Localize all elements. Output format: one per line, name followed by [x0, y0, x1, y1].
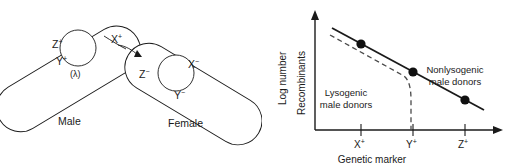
bacterial-conjugation-diagram: Z+ Y+ X+ (λ) Male Z− X− Y− Female	[0, 0, 262, 166]
plot-svg: Log number Recombinants X+ Y+ Z+ Genetic…	[262, 0, 523, 166]
recombinant-frequency-plot: Log number Recombinants X+ Y+ Z+ Genetic…	[262, 0, 523, 166]
conjugation-svg: Z+ Y+ X+ (λ) Male Z− X− Y− Female	[0, 0, 262, 166]
x-tick-label-z: Z+	[458, 138, 468, 150]
annotation-lysogenic-line1: Lysogenic	[325, 87, 368, 98]
y-axis-arrowhead	[311, 10, 319, 20]
x-tick-label-y: Y+	[406, 138, 417, 150]
male-lambda-prophage-label: (λ)	[70, 69, 81, 79]
annotation-lysogenic: Lysogenic male donors	[320, 87, 373, 110]
data-point-y	[408, 67, 417, 76]
data-point-z	[460, 95, 469, 104]
y-axis-title-outer: Log number	[277, 51, 288, 105]
annotation-nonlysogenic: Nonlysogenic male donors	[426, 64, 483, 87]
female-cell-label: Female	[168, 117, 203, 129]
x-axis-arrowhead	[493, 126, 503, 134]
annotation-nonlysogenic-line2: male donors	[429, 76, 482, 87]
annotation-lysogenic-line2: male donors	[320, 99, 373, 110]
x-tick-label-x: X+	[354, 138, 365, 150]
annotation-nonlysogenic-line1: Nonlysogenic	[426, 64, 483, 75]
figure-root: Z+ Y+ X+ (λ) Male Z− X− Y− Female	[0, 0, 523, 166]
male-cell-label: Male	[58, 115, 81, 127]
data-point-x	[356, 39, 365, 48]
x-axis-title: Genetic marker	[338, 154, 407, 165]
y-axis-title-inner: Recombinants	[296, 51, 307, 115]
